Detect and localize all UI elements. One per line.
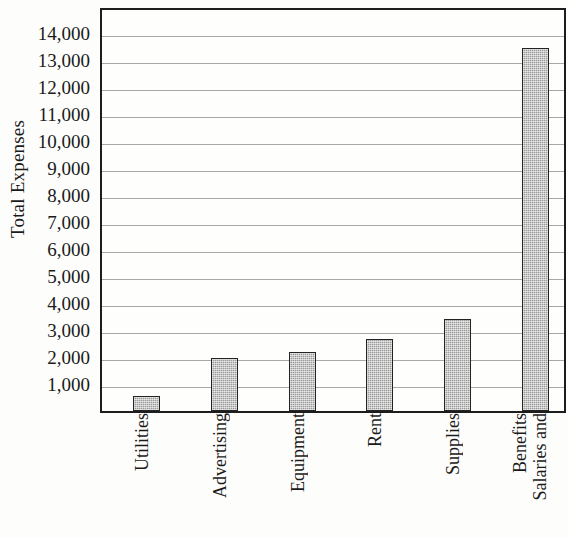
y-axis-tick-label: 10,000 [0,132,90,151]
x-axis-category-label-line: Salaries and [530,413,550,508]
x-axis-category-label-line: Utilities [132,413,152,479]
x-axis-category-label-line: Advertising [210,413,230,506]
y-axis-tick-label: 9,000 [0,159,90,178]
x-axis-category-label: Utilities [132,413,153,538]
x-axis-category-label: Salaries andBenefits [510,413,552,538]
y-axis-tick-label: 8,000 [0,186,90,205]
y-axis-tick-label: 13,000 [0,51,90,70]
x-axis-category-label: Advertising [210,413,231,538]
y-axis-tick-label: 14,000 [0,24,90,43]
bars-layer [102,10,564,411]
y-axis-tick-label: 1,000 [0,375,90,394]
y-axis-tick-label: 5,000 [0,267,90,286]
x-axis-category-label-line: Rent [365,413,385,455]
y-axis-tick-label: 7,000 [0,213,90,232]
x-axis-category-label: Rent [365,413,386,538]
y-axis-tick-label: 12,000 [0,78,90,97]
x-axis-category-label-line: Benefits [510,413,530,481]
bar [211,358,238,411]
y-axis-tick-label: 2,000 [0,348,90,367]
y-axis-tick-label: 4,000 [0,294,90,313]
bar [366,339,393,411]
x-axis-category-labels: UtilitiesAdvertisingEquipmentRentSupplie… [100,413,566,538]
bar [522,48,549,411]
x-axis-category-label-line: Equipment [288,413,308,500]
x-axis-category-label-line: Supplies [443,413,463,483]
x-axis-category-label: Equipment [288,413,309,538]
bar [444,319,471,411]
bar [289,352,316,411]
bar [133,396,160,411]
plot-area [100,8,566,413]
x-axis-category-label: Supplies [443,413,464,538]
y-axis-tick-label: 3,000 [0,321,90,340]
y-axis-tick-labels: 1,0002,0003,0004,0005,0006,0007,0008,000… [0,0,96,430]
y-axis-tick-label: 11,000 [0,105,90,124]
bar-chart: Total Expenses 1,0002,0003,0004,0005,000… [0,0,568,538]
y-axis-tick-label: 6,000 [0,240,90,259]
